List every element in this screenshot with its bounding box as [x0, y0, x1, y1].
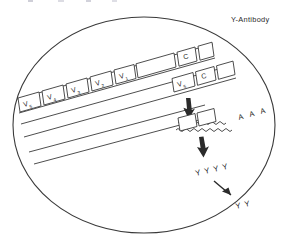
- antibody-glyph-3: Y: [212, 164, 220, 174]
- figure-canvas: V 5 V 4 V 3 V 2 V 1: [0, 0, 289, 241]
- antibodies-secreted: Y Y: [235, 199, 252, 211]
- translation-arrow: [197, 137, 209, 158]
- segment-v4-germline: V 4: [42, 85, 65, 105]
- cropped-caption-strip: [28, 0, 117, 2]
- secreted-glyph-1: Y: [235, 201, 243, 211]
- antibody-glyph-1: Y: [194, 168, 202, 178]
- secreted-glyph-2: Y: [244, 199, 252, 209]
- segment-c-germline: C: [177, 47, 197, 66]
- antibody-legend-label: Y-Antibody: [231, 15, 269, 24]
- segment-v3-germline: V 3: [66, 78, 89, 98]
- segment-v5-rearranged: V 5: [172, 73, 195, 93]
- antibody-glyph-2: Y: [203, 166, 211, 176]
- antibodies-intracellular: Y Y Y Y: [194, 162, 229, 178]
- segment-spacer-germline: [136, 53, 176, 78]
- segment-tail-rearranged: [217, 61, 236, 79]
- segment-tail-germline: [198, 42, 214, 60]
- segment-c-rearranged: C: [196, 67, 217, 86]
- segment-v5-germline: V 5: [18, 92, 41, 112]
- cell-membrane: [13, 17, 275, 233]
- antibody-glyph-4: Y: [221, 162, 229, 172]
- poly-a-3: A: [259, 106, 266, 116]
- poly-a-1: A: [237, 112, 244, 122]
- poly-a-2: A: [248, 109, 255, 119]
- mrna-exon-box-2: [197, 109, 216, 127]
- secretion-arrow: [214, 181, 231, 195]
- poly-a-tail: A A A: [237, 106, 266, 122]
